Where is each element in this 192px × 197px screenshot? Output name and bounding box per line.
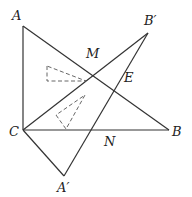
point-labels: ABCB′A′MEN — [9, 8, 182, 195]
dashed-triangle-2 — [56, 95, 85, 129]
geometry-diagram: ABCB′A′MEN — [0, 0, 192, 197]
dashed-triangles — [47, 66, 86, 129]
label-Bp: B′ — [143, 13, 157, 28]
label-Ap: A′ — [56, 180, 69, 195]
label-N: N — [103, 134, 116, 149]
label-C: C — [9, 124, 19, 139]
segment-Bp-Ap — [64, 33, 148, 176]
segment-C-Ap — [23, 130, 64, 176]
label-E: E — [123, 70, 134, 85]
diagram-svg: ABCB′A′MEN — [0, 0, 192, 197]
label-M: M — [85, 46, 100, 61]
segment-A-B — [23, 26, 169, 130]
dashed-triangle-1 — [47, 66, 86, 81]
label-A: A — [11, 8, 21, 23]
label-B: B — [171, 124, 182, 139]
